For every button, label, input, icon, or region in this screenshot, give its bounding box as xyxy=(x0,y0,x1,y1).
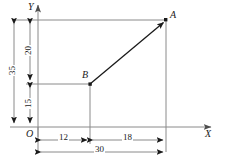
figure-canvas xyxy=(0,0,225,160)
dimension-label-12: 12 xyxy=(58,133,69,142)
segment-ba xyxy=(90,23,164,85)
point-marker-b xyxy=(88,82,91,85)
dimension-label-18: 18 xyxy=(122,133,133,142)
dimension-label-35: 35 xyxy=(8,65,17,76)
point-marker-a xyxy=(164,18,167,21)
geometry-figure: Y X O A B 35 20 15 12 18 30 xyxy=(0,0,225,160)
dimension-label-30: 30 xyxy=(94,145,105,154)
point-label-a: A xyxy=(170,10,176,20)
x-axis-label: X xyxy=(205,129,211,139)
origin-label: O xyxy=(26,129,33,139)
point-label-b: B xyxy=(82,70,88,80)
dimension-label-20: 20 xyxy=(24,45,33,56)
y-axis-label: Y xyxy=(28,2,34,12)
dimension-label-15: 15 xyxy=(24,98,33,109)
